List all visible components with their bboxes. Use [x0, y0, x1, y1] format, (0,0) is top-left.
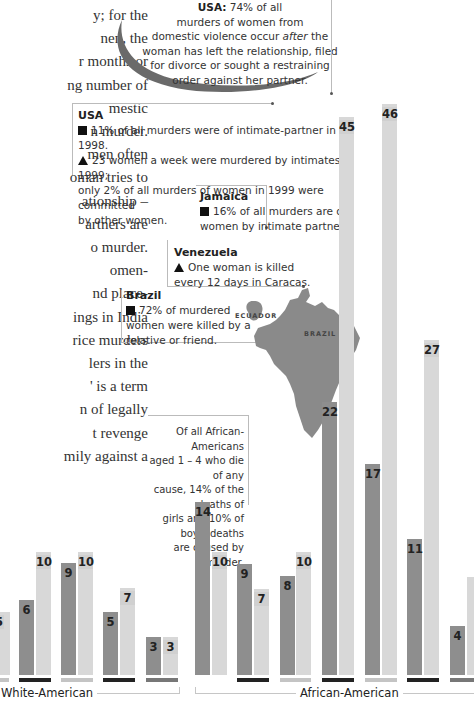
bar-light: 3 [163, 637, 178, 675]
body-line: mily against a [64, 445, 148, 468]
bar-light [467, 577, 474, 675]
callout-border [196, 185, 266, 186]
bar-light: 5 [0, 612, 10, 675]
bubble-bold: USA: [198, 1, 227, 13]
bubble-text: USA: 74% of all murders of women from do… [140, 0, 340, 87]
map-label-brazil: BRAZIL [304, 330, 336, 338]
triangle-bullet-icon [174, 263, 184, 272]
bar-dark: 11 [407, 539, 422, 675]
bar-dark: 6 [19, 600, 34, 675]
connector-line [331, 0, 332, 93]
bar-light: 7 [120, 588, 135, 675]
legend-strip [61, 678, 93, 682]
callout-border [167, 240, 168, 286]
legend-strip [407, 678, 439, 682]
bar-light: 46 [382, 104, 397, 675]
legend-strip [237, 678, 269, 682]
legend-strip [103, 678, 135, 682]
bar-light: 7 [254, 589, 269, 675]
callout-border [72, 103, 73, 175]
bar-light: 45 [339, 117, 354, 675]
legend-strip [0, 678, 9, 682]
callout-jamaica: Jamaica 16% of all murders are of women … [200, 189, 360, 234]
bar-dark: 5 [103, 612, 118, 675]
triangle-bullet-icon [78, 156, 88, 165]
body-line: ed to have [64, 468, 148, 470]
callout-title: Venezuela [174, 245, 334, 260]
callout-african-american: Of all African-Americans aged 1 – 4 who … [140, 425, 244, 570]
callout-title: USA [78, 108, 358, 123]
group-axis-tick [179, 687, 180, 694]
legend-strip [146, 678, 178, 682]
bar-dark: 8 [280, 576, 295, 675]
connector-dot [330, 92, 333, 95]
group-label-white-american: White-American [0, 686, 97, 700]
bar-dark: 14 [195, 502, 210, 675]
bar-light: 27 [424, 340, 439, 675]
bar-light: 10 [78, 552, 93, 675]
body-line: ' is a term [64, 375, 148, 398]
callout-title: Jamaica [200, 189, 360, 204]
bar-dark: 4 [450, 626, 465, 675]
callout-border [148, 415, 248, 416]
bar-dark: 3 [146, 637, 161, 675]
legend-strip [19, 678, 51, 682]
bar-light: 10 [212, 552, 227, 675]
legend-strip [280, 678, 311, 682]
bar-light: 10 [296, 552, 311, 675]
legend-strip [450, 678, 474, 682]
bar-dark: 22 [322, 402, 337, 675]
body-line: omen- [64, 259, 148, 282]
callout-border [248, 415, 249, 505]
body-line: o murder. [64, 236, 148, 259]
body-line: n of legally [64, 398, 148, 421]
bar-dark: 9 [237, 564, 252, 675]
callout-border [121, 290, 122, 342]
legend-strip [322, 678, 354, 682]
connector-dot [271, 102, 274, 105]
square-bullet-icon [78, 126, 87, 135]
square-bullet-icon [200, 207, 209, 216]
body-line: lers in the [64, 352, 148, 375]
map-label-ecuador: ECUADOR [235, 312, 277, 320]
bar-light: 10 [36, 552, 51, 675]
group-label-african-american: African-American [296, 686, 403, 700]
body-line: t revenge [64, 422, 148, 445]
bar-dark: 17 [365, 464, 380, 675]
square-bullet-icon [126, 306, 135, 315]
bar-dark: 9 [61, 563, 76, 675]
callout-border [72, 103, 272, 104]
legend-strip [365, 678, 397, 682]
